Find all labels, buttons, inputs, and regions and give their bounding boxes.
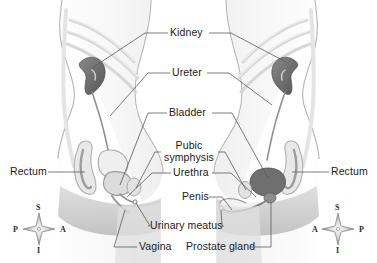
label-rectum-right: Rectum xyxy=(331,166,368,178)
male-figure xyxy=(214,0,319,263)
female-figure xyxy=(58,0,163,263)
male-pubic-symphysis xyxy=(239,182,252,199)
female-thigh-shading xyxy=(115,202,161,263)
male-thigh-shading xyxy=(216,202,262,263)
compass-right-anterior: A xyxy=(312,225,318,234)
compass-left-superior: S xyxy=(36,203,40,212)
compass-rose-left xyxy=(23,213,55,245)
label-pubic-symphysis-line1: Pubic xyxy=(163,139,215,151)
label-pubic-symphysis: Pubic symphysis xyxy=(163,139,215,163)
female-pubic-symphysis xyxy=(127,178,141,196)
label-pubic-symphysis-line2: symphysis xyxy=(163,151,215,163)
label-penis: Penis xyxy=(182,191,209,203)
compass-left-anterior: A xyxy=(60,225,66,234)
compass-right-posterior: P xyxy=(359,225,364,234)
label-urinary-meatus: Urinary meatus xyxy=(150,220,223,232)
male-bladder xyxy=(250,168,286,196)
compass-left-posterior: P xyxy=(13,225,18,234)
label-kidney: Kidney xyxy=(170,27,203,39)
label-bladder: Bladder xyxy=(169,107,206,119)
compass-rose-right xyxy=(322,213,354,245)
compass-left-inferior: I xyxy=(37,246,40,255)
label-ureter: Ureter xyxy=(172,67,202,79)
compass-right-superior: S xyxy=(335,203,339,212)
compass-right-inferior: I xyxy=(336,246,339,255)
label-urethra: Urethra xyxy=(173,167,209,179)
urinary-anatomy-diagram: Kidney Ureter Bladder Pubic symphysis Ur… xyxy=(0,0,377,263)
label-vagina: Vagina xyxy=(139,241,172,253)
label-prostate-gland: Prostate gland xyxy=(186,241,255,253)
label-rectum-left: Rectum xyxy=(10,166,47,178)
